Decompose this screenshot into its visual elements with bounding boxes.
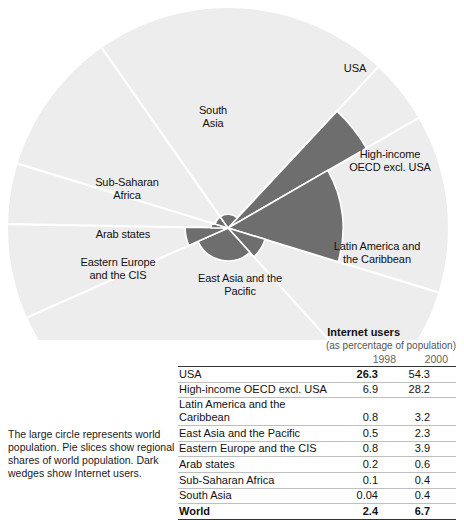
table-cell-2000: 0.4 bbox=[378, 472, 456, 488]
table-cell-2000: 2.3 bbox=[378, 426, 456, 442]
table-cell-region: East Asia and the Pacific bbox=[178, 426, 328, 442]
pie-label-eastern-europe: Eastern Europe and the CIS bbox=[58, 256, 178, 281]
table-cell-2000: 28.2 bbox=[378, 382, 456, 398]
table-cell-1998: 0.5 bbox=[328, 426, 378, 442]
table-cell-1998: 2.4 bbox=[328, 504, 378, 520]
table-cell-1998: 6.9 bbox=[328, 382, 378, 398]
pie-label-usa: USA bbox=[325, 62, 385, 75]
table-cell-region: Latin America and the Caribbean bbox=[178, 398, 328, 426]
table-cell-region: World bbox=[178, 504, 328, 520]
table-subtitle: (as percentage of population) bbox=[326, 340, 456, 351]
table-cell-region: South Asia bbox=[178, 488, 328, 504]
table-cell-2000: 3.9 bbox=[378, 441, 456, 457]
column-header-2000: 2000 bbox=[396, 353, 448, 365]
table-body: USA26.354.3High-income OECD excl. USA6.9… bbox=[178, 367, 456, 520]
table-row: High-income OECD excl. USA6.928.2 bbox=[178, 382, 456, 398]
figure-caption: The large circle represents world popula… bbox=[8, 428, 178, 480]
table-cell-2000: 3.2 bbox=[378, 398, 456, 426]
table-cell-region: High-income OECD excl. USA bbox=[178, 382, 328, 398]
table-cell-1998: 0.8 bbox=[328, 398, 378, 426]
table-cell-2000: 6.7 bbox=[378, 504, 456, 520]
table-cell-1998: 0.8 bbox=[328, 441, 378, 457]
table-year-headers: 1998 2000 bbox=[346, 353, 456, 365]
table-cell-region: Eastern Europe and the CIS bbox=[178, 441, 328, 457]
table-row: East Asia and the Pacific0.52.3 bbox=[178, 426, 456, 442]
table-row: Sub-Saharan Africa0.10.4 bbox=[178, 472, 456, 488]
pie-label-high-income-oecd: High-income OECD excl. USA bbox=[330, 148, 450, 173]
pie-label-latin-america: Latin America and the Caribbean bbox=[312, 240, 442, 265]
table-cell-2000: 0.6 bbox=[378, 457, 456, 473]
table-title: Internet users bbox=[327, 326, 400, 338]
data-table: USA26.354.3High-income OECD excl. USA6.9… bbox=[178, 366, 456, 520]
table-row: South Asia0.040.4 bbox=[178, 488, 456, 504]
column-header-1998: 1998 bbox=[346, 353, 396, 365]
table-row: Eastern Europe and the CIS0.83.9 bbox=[178, 441, 456, 457]
table-cell-region: Sub-Saharan Africa bbox=[178, 472, 328, 488]
table-cell-1998: 0.1 bbox=[328, 472, 378, 488]
pie-chart: South Asia USA High-income OECD excl. US… bbox=[0, 0, 464, 340]
pie-label-arab-states: Arab states bbox=[78, 228, 168, 241]
table-cell-1998: 0.04 bbox=[328, 488, 378, 504]
table-row: Latin America and the Caribbean0.83.2 bbox=[178, 398, 456, 426]
table-cell-region: Arab states bbox=[178, 457, 328, 473]
table-row: World2.46.7 bbox=[178, 504, 456, 520]
table-row: Arab states0.20.6 bbox=[178, 457, 456, 473]
table-header: Internet users (as percentage of populat… bbox=[178, 326, 456, 366]
pie-label-south-asia: South Asia bbox=[178, 104, 248, 129]
pie-label-east-asia: East Asia and the Pacific bbox=[180, 272, 300, 297]
table-cell-1998: 0.2 bbox=[328, 457, 378, 473]
table-cell-2000: 0.4 bbox=[378, 488, 456, 504]
pie-label-sub-saharan-africa: Sub-Saharan Africa bbox=[72, 176, 182, 201]
internet-users-table: Internet users (as percentage of populat… bbox=[178, 326, 456, 520]
table-cell-region: USA bbox=[178, 367, 328, 383]
table-row: USA26.354.3 bbox=[178, 367, 456, 383]
table-cell-2000: 54.3 bbox=[378, 367, 456, 383]
table-cell-1998: 26.3 bbox=[328, 367, 378, 383]
